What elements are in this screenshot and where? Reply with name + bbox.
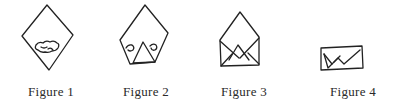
figure-4-label: Figure 4 bbox=[330, 84, 376, 100]
